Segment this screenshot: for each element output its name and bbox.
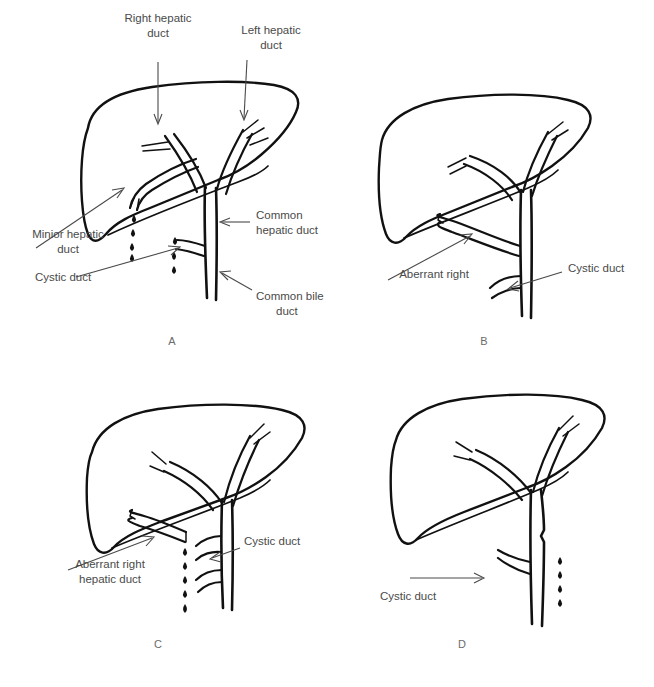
- common-bile-duct-b: [520, 190, 522, 316]
- label-common-bile-duct-line2: duct: [276, 305, 299, 317]
- left-hepatic-tributary-c2: [254, 432, 270, 444]
- left-hepatic-duct-wall-d: [542, 432, 568, 496]
- bile-droplets-a: [130, 215, 177, 274]
- leader-line: [510, 272, 562, 288]
- biliary-anatomy-figure: Right hepatic duct Left hepatic duct Min…: [0, 0, 654, 687]
- aberrant-right-hepatic-duct-wall-b: [438, 222, 519, 256]
- common-bile-duct-a: [205, 186, 207, 298]
- annotation-aberrant-right-hepatic-duct-c: Aberrant right hepatic duct: [68, 536, 154, 585]
- annotation-common-hepatic-duct-a: Common hepatic duct: [220, 209, 319, 236]
- cystic-duct-wall-a: [176, 249, 204, 256]
- right-hepatic-duct-wall-b: [464, 164, 512, 200]
- right-hepatic-tributary-b2: [450, 166, 466, 174]
- label-right-hepatic-duct-line1: Right hepatic: [124, 12, 191, 24]
- label-aberrant-right-c-line1: Aberrant right: [75, 558, 145, 570]
- label-cystic-duct-b: Cystic duct: [568, 262, 625, 274]
- left-hepatic-tributary-c1: [250, 424, 264, 438]
- panel-a: Right hepatic duct Left hepatic duct Min…: [32, 12, 324, 347]
- cystic-duct-lower-wall-c: [198, 582, 222, 592]
- label-minior-hepatic-duct-line2: duct: [57, 243, 80, 255]
- panel-letter-b: B: [480, 335, 487, 347]
- right-hepatic-tributary-a1: [142, 142, 168, 146]
- label-cystic-duct-d: Cystic duct: [380, 590, 437, 602]
- common-bile-duct-wall-c: [232, 500, 233, 610]
- right-hepatic-duct-d: [476, 450, 531, 493]
- cystic-duct-lower-c: [196, 570, 222, 580]
- bile-droplet: [183, 590, 187, 598]
- label-common-bile-duct-line1: Common bile: [256, 290, 324, 302]
- bile-droplet: [558, 571, 562, 579]
- left-hepatic-tributary-d2: [563, 424, 579, 436]
- bile-droplet: [130, 243, 134, 251]
- bile-droplet: [131, 229, 135, 237]
- annotation-minior-hepatic-duct-a: Minior hepatic duct: [32, 188, 124, 255]
- bile-droplets-d: [558, 557, 562, 607]
- bile-droplet: [183, 562, 187, 570]
- liver-inferior-edge-b: [404, 170, 558, 238]
- bile-droplet: [172, 266, 176, 274]
- liver-outline-c: [87, 405, 305, 553]
- left-hepatic-tributary-b1: [548, 122, 563, 134]
- right-hepatic-tributary-c2: [150, 466, 164, 472]
- label-common-hepatic-duct-line1: Common: [256, 209, 303, 221]
- bile-droplet: [558, 557, 562, 565]
- bile-droplet: [183, 548, 187, 556]
- left-hepatic-tributary-d1: [559, 416, 573, 430]
- minor-hepatic-duct-cut-end-a: [130, 198, 139, 210]
- left-hepatic-tributary-a2: [247, 128, 264, 138]
- panel-b: Aberrant right Cystic duct B: [379, 95, 625, 347]
- common-bile-duct-wall-b: [531, 190, 532, 318]
- common-bile-duct-wall-a: [216, 188, 217, 300]
- label-aberrant-right-c-line2: hepatic duct: [79, 573, 142, 585]
- annotation-cystic-duct-c: Cystic duct: [210, 535, 301, 562]
- annotation-common-bile-duct-a: Common bile duct: [220, 271, 324, 317]
- leader-line: [222, 273, 252, 290]
- panel-letter-d: D: [458, 638, 466, 650]
- common-bile-duct-d: [530, 490, 532, 624]
- bile-droplet: [173, 237, 177, 245]
- cystic-duct-a: [177, 240, 205, 246]
- bile-droplets-c: [183, 548, 187, 613]
- bile-droplet: [183, 576, 187, 584]
- label-cystic-duct-c: Cystic duct: [244, 535, 301, 547]
- leader-line: [244, 60, 247, 118]
- left-hepatic-tributary-a3: [250, 138, 268, 145]
- label-minior-hepatic-duct-line1: Minior hepatic: [32, 228, 104, 240]
- leader-line: [212, 548, 240, 558]
- label-common-hepatic-duct-line2: hepatic duct: [256, 224, 319, 236]
- leader-line: [76, 248, 178, 277]
- label-left-hepatic-duct-line2: duct: [260, 39, 283, 51]
- label-right-hepatic-duct-line2: duct: [147, 27, 170, 39]
- left-hepatic-tributary-a1: [243, 120, 258, 132]
- annotation-right-hepatic-duct-a: Right hepatic duct: [124, 12, 191, 124]
- annotation-left-hepatic-duct-a: Left hepatic duct: [240, 24, 301, 120]
- label-cystic-duct-a: Cystic duct: [35, 271, 92, 283]
- liver-outline-b: [379, 95, 591, 243]
- cystic-duct-wall-b: [492, 288, 521, 298]
- annotation-cystic-duct-d: Cystic duct: [380, 573, 484, 602]
- panel-letter-c: C: [154, 638, 162, 650]
- common-bile-duct-wall-d: [541, 490, 544, 626]
- annotation-cystic-duct-b: Cystic duct: [508, 262, 625, 291]
- cystic-duct-c: [196, 536, 221, 546]
- right-hepatic-tributary-a2: [143, 149, 170, 151]
- panel-c: Aberrant right hepatic duct Cystic duct …: [68, 405, 305, 650]
- bile-droplet: [558, 585, 562, 593]
- panel-letter-a: A: [168, 335, 176, 347]
- label-aberrant-right-b-line1: Aberrant right: [399, 268, 469, 280]
- label-left-hepatic-duct-line1: Left hepatic: [241, 24, 301, 36]
- panel-d: Cystic duct D: [380, 395, 605, 650]
- right-hepatic-tributary-d1: [456, 442, 472, 452]
- bile-droplet: [183, 604, 187, 613]
- right-hepatic-duct-c: [170, 462, 222, 503]
- right-hepatic-tributary-b1: [448, 158, 466, 167]
- left-hepatic-tributary-b2: [552, 130, 568, 140]
- right-hepatic-tributary-d2: [454, 456, 470, 460]
- bile-droplet: [558, 599, 562, 607]
- right-hepatic-tributary-c1: [152, 452, 166, 464]
